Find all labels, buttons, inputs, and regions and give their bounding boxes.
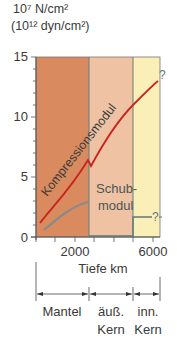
y-tick-label-15: 15 xyxy=(14,49,28,64)
label-inner-core-2: Kern xyxy=(134,322,161,337)
label-outer-core-2: Kern xyxy=(97,322,124,337)
x-axis-label: Tiefe km xyxy=(78,261,127,276)
y-tick-label-0: 0 xyxy=(21,230,28,245)
x-tick-label-6000: 6000 xyxy=(139,244,168,259)
schubmodul-label-1: Schub- xyxy=(96,181,137,196)
y-tick-label-10: 10 xyxy=(14,109,28,124)
x-ticks xyxy=(36,237,153,242)
y-tick-label-5: 5 xyxy=(21,169,28,184)
schubmodul-label-2: modul xyxy=(98,198,134,213)
label-inner-core-1: inn. xyxy=(138,304,159,319)
label-mantel: Mantel xyxy=(42,304,81,319)
label-outer-core-1: äuß. xyxy=(98,304,124,319)
kompression-question-mark: ? xyxy=(159,68,166,82)
x-tick-label-2000: 2000 xyxy=(61,244,90,259)
y-ticks xyxy=(31,57,36,237)
chart: 15 10 5 0 2000 6000 Tiefe km ? Kompressi… xyxy=(0,0,177,345)
schub-question-mark: ? xyxy=(152,210,159,224)
